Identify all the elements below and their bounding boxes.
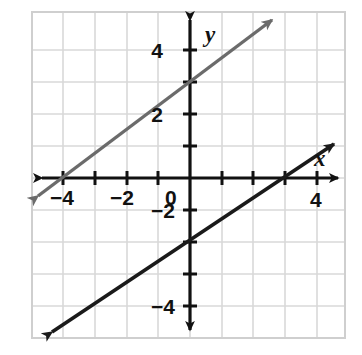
coordinate-plane-figure: y x −4 −2 0 4 4 2 −2 −4 (0, 0, 362, 355)
x-tick-label-4: 4 (310, 188, 322, 211)
graph-canvas: y x −4 −2 0 4 4 2 −2 −4 (0, 0, 362, 355)
y-tick-label-neg2: −2 (151, 199, 175, 222)
y-axis-label: y (202, 22, 216, 47)
y-tick-label-neg4: −4 (151, 295, 175, 318)
x-tick-label-neg4: −4 (50, 186, 74, 209)
y-tick-label-2: 2 (151, 103, 163, 126)
x-tick-label-neg2: −2 (110, 186, 134, 209)
x-axis-label: x (313, 146, 326, 171)
y-tick-label-4: 4 (151, 39, 163, 62)
